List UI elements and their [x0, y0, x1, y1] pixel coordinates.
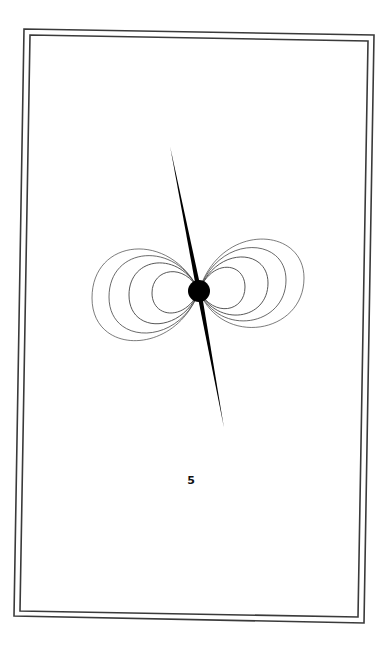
outer-border	[14, 29, 374, 623]
card-illustration	[0, 0, 387, 656]
inner-border	[20, 35, 368, 617]
page-number: 5	[183, 474, 199, 487]
center-dot	[188, 280, 210, 302]
